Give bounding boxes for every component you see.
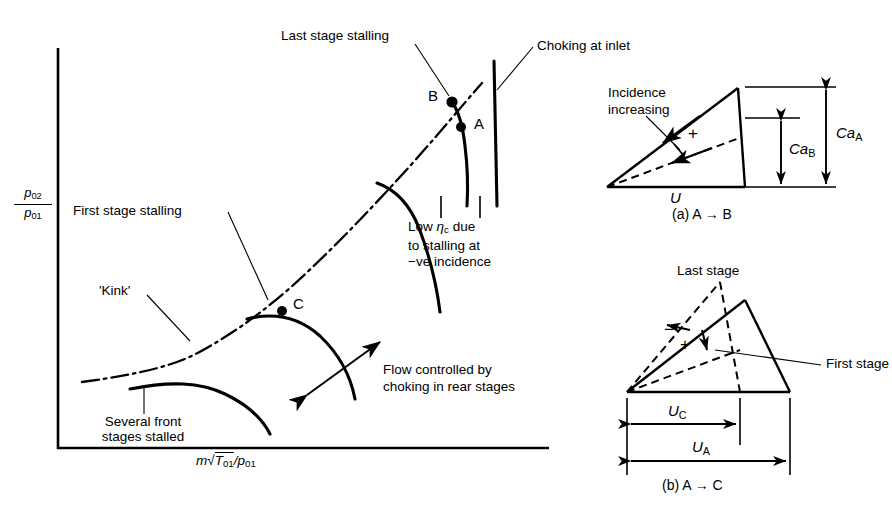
incidence-line1: Incidence [608,85,666,100]
label-kink: 'Kink' [99,283,130,298]
point-marker-a [456,122,466,132]
choking-line [494,61,497,206]
point-marker-c [277,306,287,316]
plus-sign-a: + [688,126,698,141]
ua-main: U [692,438,703,455]
caa-main: Ca [836,124,855,141]
label-several-front-stages: Several front stages stalled [83,414,203,444]
label-first-stage: First stage [826,356,889,371]
flow-controlled-line1: Flow controlled by [383,362,492,377]
label-cab: CaB [789,140,815,159]
uc-main: U [668,402,679,419]
point-label-b: B [428,88,438,103]
plus-sign-b: + [680,337,690,352]
y-axis-num-sub: 02 [31,191,41,201]
incidence-tick [674,144,684,156]
flow-controlled-line2: choking in rear stages [383,379,515,394]
leader-first-stage-stalling [228,212,268,300]
low-eta-line2: to stalling at [408,238,480,253]
label-choking-at-inlet: Choking at inlet [537,38,630,53]
label-incidence-increasing: Incidence increasing [608,84,670,118]
label-ua: UA [692,438,710,457]
low-eta-line3: −ve incidence [408,254,491,269]
label-u-triangle-a: U [670,190,681,205]
label-flow-controlled: Flow controlled by choking in rear stage… [383,361,515,395]
triangle-a-arrow-dashed [672,148,712,163]
point-label-c: C [293,296,304,311]
caption-triangle-b: (b) A → C [662,478,723,493]
several-front-line2: stages stalled [102,429,185,444]
label-last-stage-stalling: Last stage stalling [281,28,389,43]
leader-kink [147,295,190,341]
label-first-stage-stalling: First stage stalling [73,203,182,218]
label-uc: UC [668,402,687,421]
triangle-b-right-side-solid [745,300,790,392]
velocity-triangle-b [627,282,821,475]
minus-sign-b: − [664,322,674,337]
y-axis-label: p02 p01 [14,186,52,224]
speed-line-top [452,102,468,206]
cab-main: Ca [789,140,808,157]
incidence-line2: increasing [608,102,670,117]
leader-first-stage [715,350,821,365]
low-eta-line1: Low ηc due [408,219,475,234]
cab-sub: B [808,147,815,159]
caption-triangle-a: (a) A → B [672,207,732,222]
point-label-a: A [474,116,484,131]
flow-control-double-arrow [307,342,380,395]
label-low-efficiency: Low ηc due to stalling at −ve incidence [408,219,491,270]
caa-sub: A [855,131,862,143]
leader-choking-at-inlet [497,47,533,90]
ua-sub: A [703,445,710,457]
speed-line-mid [247,316,355,399]
triangle-b-right-side-dashed [720,282,740,392]
y-axis-den-sub: 01 [31,212,41,222]
x-axis-label: m√T01/p01 [196,453,256,469]
several-front-line1: Several front [105,414,182,429]
label-last-stage: Last stage [677,263,739,278]
label-caa: CaA [836,124,862,143]
point-marker-b [446,96,457,107]
uc-sub: C [679,409,687,421]
